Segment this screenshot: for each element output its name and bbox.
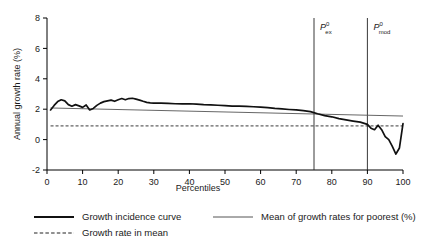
- annotation-vlines: [314, 18, 367, 170]
- axes: [47, 18, 403, 170]
- x-tick-label: 60: [256, 177, 266, 187]
- y-axis-ticks: -202468: [32, 13, 47, 175]
- x-tick-label: 0: [44, 177, 49, 187]
- annotation-label-mod: P0mod: [373, 21, 390, 35]
- y-tick-label: 6: [35, 44, 40, 54]
- chart-legend: Growth incidence curve Mean of growth ra…: [34, 211, 416, 238]
- y-axis-title: Annual growth rate (%): [12, 48, 22, 140]
- x-tick-label: 90: [362, 177, 372, 187]
- data-series: [51, 98, 403, 154]
- y-tick-label: 2: [35, 104, 40, 114]
- x-tick-label: 80: [327, 177, 337, 187]
- legend-label-growth-rate-in-mean: Growth rate in mean: [82, 227, 168, 238]
- x-tick-label: 10: [78, 177, 88, 187]
- x-axis-title: Percentiles: [176, 183, 221, 193]
- x-tick-label: 70: [291, 177, 301, 187]
- series-mean-of-growth-rates-for-poorest: [51, 108, 403, 116]
- x-axis-ticks: 0102030405060708090100: [44, 170, 410, 187]
- annotation-label-ex: P0ex: [320, 21, 332, 35]
- y-tick-label: 8: [35, 13, 40, 23]
- growth-incidence-curve-figure: -202468 0102030405060708090100 P0exP0mod…: [0, 0, 427, 249]
- chart-svg: -202468 0102030405060708090100 P0exP0mod…: [0, 0, 427, 249]
- y-tick-label: 0: [35, 135, 40, 145]
- x-tick-label: 20: [113, 177, 123, 187]
- y-tick-label: 4: [35, 74, 40, 84]
- x-tick-label: 50: [220, 177, 230, 187]
- x-tick-label: 100: [395, 177, 410, 187]
- legend-label-growth-incidence-curve: Growth incidence curve: [82, 211, 181, 222]
- legend-label-mean-of-growth-rates-for-poorest: Mean of growth rates for poorest (%): [261, 211, 416, 222]
- x-tick-label: 30: [149, 177, 159, 187]
- y-tick-label: -2: [32, 165, 40, 175]
- annotation-labels: P0exP0mod: [320, 21, 390, 35]
